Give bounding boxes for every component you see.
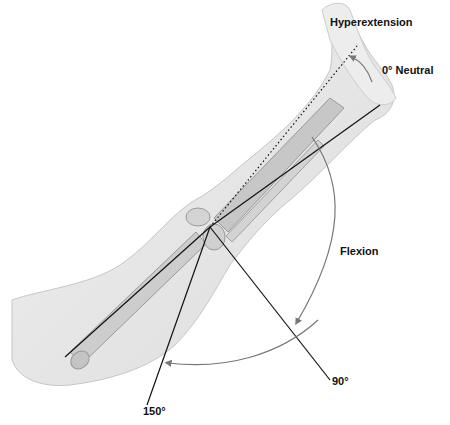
flexion-label: Flexion xyxy=(340,245,379,257)
deg90-label: 90° xyxy=(332,375,349,387)
leg-silhouette xyxy=(12,3,396,385)
knee-rom-diagram: Hyperextension 0° Neutral Flexion 90° 15… xyxy=(0,0,450,425)
flexion-90-line xyxy=(210,227,330,380)
neutral-label: 0° Neutral xyxy=(382,64,433,76)
deg150-label: 150° xyxy=(143,405,166,417)
hyperextension-label: Hyperextension xyxy=(330,16,413,28)
bones xyxy=(67,98,344,373)
